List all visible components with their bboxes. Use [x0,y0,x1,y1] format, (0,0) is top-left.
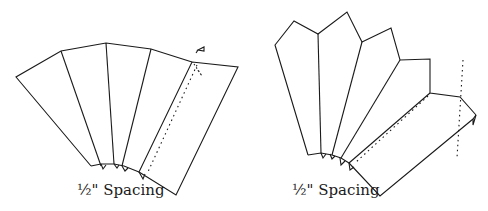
left-tab-marker [101,164,106,169]
diagram-canvas [0,0,488,211]
left-fan-figure [16,43,238,195]
left-figure-caption: ½" Spacing [77,181,165,199]
left-panel-divider [122,49,151,166]
right-fan-outline [275,12,476,155]
left-end-panel [139,62,238,195]
right-panel-divider [341,60,400,158]
right-panel-divider [332,42,362,155]
right-panel-divider [349,93,430,163]
left-top-tab-marker [198,47,204,51]
right-fan-figure [275,12,476,196]
right-panel-divider [318,34,321,153]
right-fold-line [355,96,428,163]
left-panel-divider [61,51,101,166]
left-fan-outline [16,43,192,166]
left-panel-divider [106,43,114,164]
left-fold-line [147,65,197,174]
right-vertical-guide-line [457,60,463,158]
right-figure-caption: ½" Spacing [292,181,380,199]
